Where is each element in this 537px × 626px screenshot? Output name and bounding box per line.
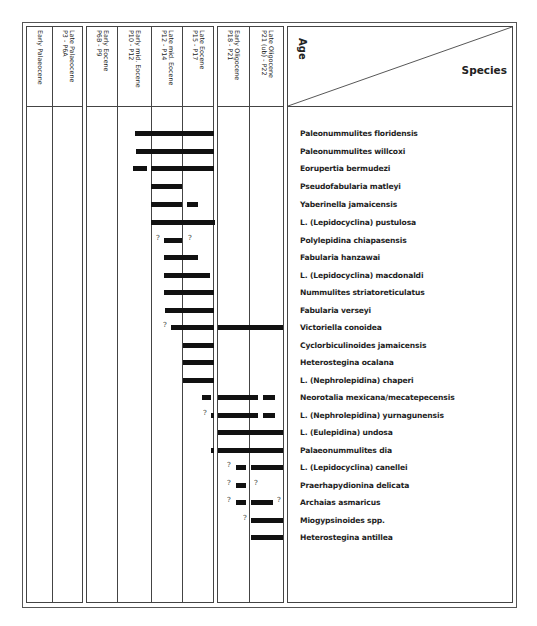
species-label: Paleonummulites floridensis [300,129,418,138]
species-label: Victoriella conoidea [300,323,382,332]
species-label: L. (Lepidocyclina) canellei [300,463,407,472]
uncertain-mark: ? [227,496,231,504]
range-bar [164,238,182,243]
species-label: Archaias asmaricus [300,498,380,507]
range-bar [183,378,214,383]
species-label: L. (Eulepidina) undosa [300,428,393,437]
species-label: Fabularia hanzawai [300,253,380,262]
species-label: L. (Nephrolepidina) yurnagunensis [300,411,444,420]
range-bar [251,500,273,505]
range-bar [251,465,283,470]
species-label: L. (Lepidocyclina) pustulosa [300,218,416,227]
range-bar [218,413,258,418]
species-label: Polylepidina chiapasensis [300,236,407,245]
uncertain-mark: ? [277,496,281,504]
species-label: Heterostegina ocalana [300,358,394,367]
uncertain-mark: ? [243,514,247,522]
range-bar [151,220,215,225]
range-bar [202,395,211,400]
uncertain-mark: ? [156,234,160,242]
range-bar [236,500,246,505]
species-label: Pseudofabularia matleyi [300,182,401,191]
range-bar [211,413,214,418]
range-bar [133,166,147,171]
range-bar [218,325,283,330]
age-axis-label: Age [297,38,308,60]
range-bar [183,360,214,365]
column-header-late-oligocene: Late Oligocene P21 (ub) - P22 [249,24,284,104]
uncertain-mark: ? [227,461,231,469]
column-header-late-palaeocene: Late Palaeocene P3 - P6A [52,24,83,104]
species-label: Miogypsinoides spp. [300,516,385,525]
range-bar [171,325,214,330]
range-bar [183,343,214,348]
species-label: Paleonummulites willcoxi [300,147,405,156]
uncertain-mark: ? [254,479,258,487]
species-label: Cyclorbiculinoides jamaicensis [300,341,426,350]
range-bar [218,430,283,435]
range-bar [236,483,246,488]
species-axis-label: Species [462,64,507,76]
range-bar [164,290,214,295]
uncertain-mark: ? [227,479,231,487]
range-bar [151,202,182,207]
species-label: L. (Nephrolepidina) chaperi [300,376,414,385]
uncertain-mark: ? [188,234,192,242]
column-header-early-eocene: Early Eocene P6B - P9 [86,24,117,104]
uncertain-mark: ? [163,321,167,329]
column-header-early-oligocene: Early Oligocene P18 - P21 [217,24,249,104]
species-label: Palaeonummulites dia [300,446,392,455]
range-bar [218,395,258,400]
species-label: Nummulites striatoreticulatus [300,288,425,297]
range-bar [236,465,246,470]
range-bar [218,448,283,453]
range-bar [211,448,214,453]
range-bar [165,308,214,313]
range-bar [187,202,198,207]
species-label: Praerhapydionina delicata [300,481,409,490]
range-bar [151,184,182,189]
species-label: Neorotalia mexicana/mecatepecensis [300,393,455,402]
column-header-late-mid-eocene: Late mid. Eocene P12 - P14 [151,24,182,104]
species-label: Fabularia verseyi [300,306,371,315]
range-bar [263,395,275,400]
species-label: Yaberinella jamaicensis [300,200,397,209]
column-header-late-eocene: Late Eocene P15 - P17 [182,24,214,104]
range-bar [135,131,214,136]
species-label: Eorupertia bermudezi [300,164,390,173]
column-header-early-palaeocene: Early Palaeocene [26,24,52,104]
species-label: Heterostegina antillea [300,533,393,542]
range-bar [151,166,214,171]
column-header-early-mid-eocene: Early mid. Eocene P10 - P12 [117,24,151,104]
uncertain-mark: ? [203,409,207,417]
species-label: L. (Lepidocyclina) macdonaldi [300,271,423,280]
range-bar [263,413,275,418]
range-bar [164,273,210,278]
range-bar [251,518,283,523]
range-bar [164,255,198,260]
range-bar [136,149,214,154]
range-bar [251,535,283,540]
